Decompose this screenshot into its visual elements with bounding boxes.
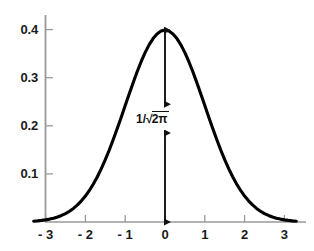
x-tick-label: - 3 [29,228,63,241]
x-tick-label: 1 [188,228,222,241]
y-tick-label: 0.2 [4,119,38,132]
y-tick-label: 0.4 [4,23,38,36]
y-axis-ticks [46,30,54,174]
annotation-numerator: 1 [136,112,143,126]
annotation-radicand: 2π [152,111,169,126]
normal-distribution-figure: 0.4 0.3 0.2 0.1 - 3 - 2 - 1 0 1 2 3 1/√2… [0,0,314,251]
x-tick-label: - 2 [68,228,102,241]
x-tick-label: 2 [228,228,262,241]
x-tick-label: 0 [148,228,182,241]
x-tick-label: 3 [267,228,301,241]
y-tick-label: 0.3 [4,71,38,84]
peak-height-annotation: 1/√2π [136,113,169,125]
x-tick-label: - 1 [108,228,142,241]
y-tick-label: 0.1 [4,167,38,180]
